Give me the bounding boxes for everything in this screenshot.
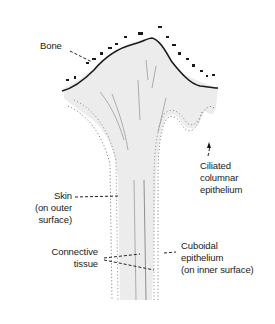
label-connective-tissue: Connective tissue xyxy=(30,246,98,270)
label-skin: Skin (on outer surface) xyxy=(10,190,72,226)
label-ciliated-columnar-epithelium: Ciliated columnar epithelium xyxy=(200,160,242,196)
label-cuboidal-epithelium: Cuboidal epithelium (on inner surface) xyxy=(181,240,254,276)
ciliated-arrow-icon xyxy=(207,142,211,148)
label-bone: Bone xyxy=(40,40,62,52)
diagram: Bone Skin (on outer surface) Connective … xyxy=(0,0,275,324)
